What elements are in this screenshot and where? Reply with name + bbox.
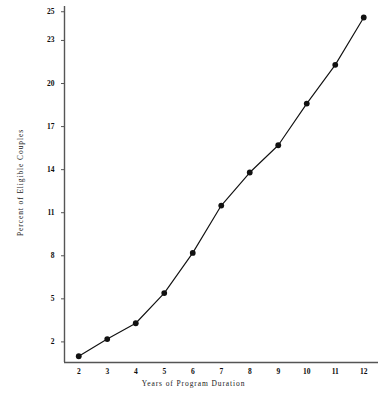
y-tick-label: 25 [33, 7, 55, 16]
x-tick-label: 6 [183, 367, 203, 376]
data-point-marker [275, 142, 281, 148]
data-point-marker [247, 170, 253, 176]
x-tick-label: 3 [97, 367, 117, 376]
y-tick-label: 5 [33, 294, 55, 303]
x-tick-label: 8 [240, 367, 260, 376]
data-point-marker [361, 15, 367, 21]
y-tick-label: 20 [33, 79, 55, 88]
data-point-marker [133, 320, 139, 326]
data-point-marker [104, 336, 110, 342]
x-tick-label: 10 [297, 367, 317, 376]
x-tick-label: 2 [69, 367, 89, 376]
y-tick-label: 8 [33, 251, 55, 260]
axes-group [64, 6, 378, 363]
data-point-marker [304, 101, 310, 107]
data-point-marker [161, 290, 167, 296]
x-axis-title: Years of Program Duration [0, 379, 387, 388]
y-tick-label: 17 [33, 122, 55, 131]
y-tick-label: 14 [33, 165, 55, 174]
x-tick-label: 11 [325, 367, 345, 376]
data-point-marker [218, 203, 224, 209]
y-axis-title: Percent of Eligible Couples [16, 73, 25, 293]
y-tick-label: 11 [33, 208, 55, 217]
data-line [79, 17, 364, 356]
line-chart-plot [0, 0, 387, 401]
x-tick-label: 5 [154, 367, 174, 376]
data-markers [76, 15, 367, 360]
data-point-marker [332, 62, 338, 68]
chart-figure: 258111417202325 23456789101112 Years of … [0, 0, 387, 401]
x-tick-label: 4 [126, 367, 146, 376]
x-tick-label: 7 [211, 367, 231, 376]
y-tick-label: 2 [33, 337, 55, 346]
data-point-marker [190, 250, 196, 256]
x-tick-label: 9 [268, 367, 288, 376]
data-point-marker [76, 353, 82, 359]
y-tick-label: 23 [33, 35, 55, 44]
x-tick-label: 12 [354, 367, 374, 376]
